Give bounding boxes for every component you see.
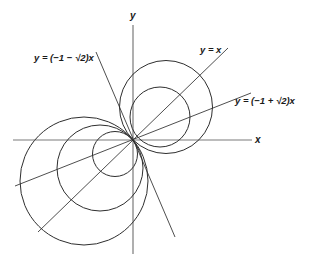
label-y-equals-x: y = x [200,45,221,55]
diagram-figure: y x y = x y = (−1 + √2)x y = (−1 − √2)x [0,0,310,263]
diagram-canvas [0,0,310,263]
label-y-equals-neg1-plus-sqrt2-x: y = (−1 + √2)x [235,96,295,106]
y-axis-label: y [130,11,136,21]
label-y-equals-neg1-minus-sqrt2-x: y = (−1 − √2)x [34,53,94,63]
x-axis-label: x [255,135,261,145]
circle-upper-small [130,87,190,147]
